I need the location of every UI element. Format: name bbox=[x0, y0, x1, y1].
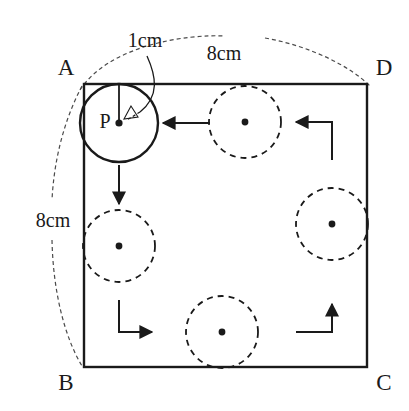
circle-right bbox=[296, 188, 368, 260]
arrow-elbow-top-right bbox=[296, 122, 332, 160]
point-label-P: P bbox=[99, 110, 110, 132]
vertex-label-C: C bbox=[376, 370, 391, 395]
left-dimension-label: 8cm bbox=[36, 209, 71, 231]
circle-top-center-dot bbox=[242, 119, 249, 126]
circle-right-center-dot bbox=[329, 221, 336, 228]
figure-canvas: A D B C P 8cm 8cm 1cm bbox=[0, 0, 409, 411]
vertex-label-B: B bbox=[58, 370, 73, 395]
radius-leader-arrowhead bbox=[124, 106, 138, 119]
circle-P bbox=[80, 84, 158, 162]
circle-bottom-center-dot bbox=[219, 329, 226, 336]
square-abcd bbox=[84, 84, 367, 367]
radius-dimension-label: 1cm bbox=[128, 29, 163, 51]
dimension-leaders bbox=[52, 36, 370, 366]
circle-top bbox=[209, 86, 281, 158]
circle-left bbox=[83, 210, 155, 282]
arrow-elbow-bottom-left bbox=[119, 300, 152, 332]
geometry-figure: A D B C P 8cm 8cm 1cm bbox=[0, 0, 409, 411]
left-dimension-arc-top bbox=[52, 86, 82, 200]
top-dimension-label: 8cm bbox=[207, 42, 242, 64]
arrow-elbow-bottom-right bbox=[296, 304, 332, 332]
vertex-label-D: D bbox=[376, 55, 393, 80]
circle-left-center-dot bbox=[116, 243, 123, 250]
vertex-label-A: A bbox=[58, 55, 75, 80]
dashed-circle-group bbox=[83, 86, 368, 368]
motion-arrow-group bbox=[119, 122, 332, 332]
top-dimension-arc-right bbox=[265, 38, 370, 86]
circle-P-center-dot bbox=[115, 119, 122, 126]
left-dimension-arc-bottom bbox=[52, 240, 82, 366]
circle-bottom bbox=[186, 296, 258, 368]
